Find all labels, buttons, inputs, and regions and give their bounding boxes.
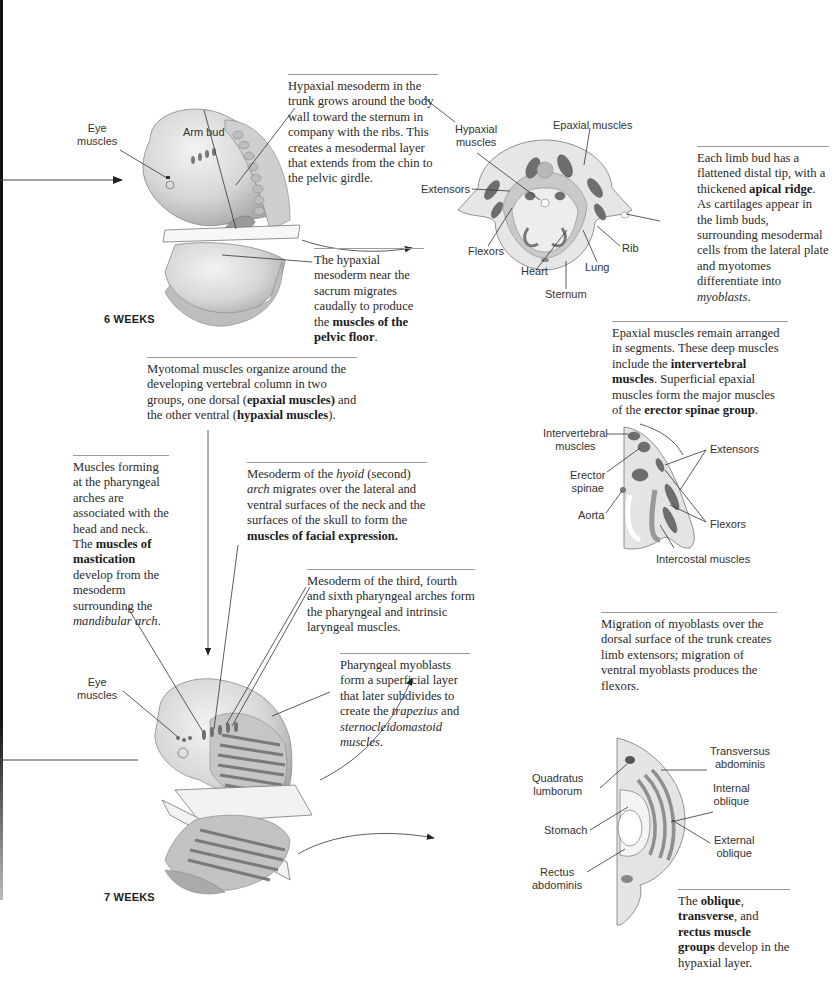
label-erector-spinae: Erector spinae — [570, 469, 605, 495]
caption-text: migrates over the lateral and ventral su… — [247, 482, 425, 527]
label-internal-oblique: Internal oblique — [713, 782, 750, 808]
caption-text: . — [747, 290, 750, 304]
caption-third-fourth-sixth-arches: Mesoderm of the third, fourth and sixth … — [307, 569, 475, 636]
term-mandibular-arch: mandibular arch — [73, 614, 158, 628]
term-myoblasts: myoblasts — [697, 290, 747, 304]
term-trapezius: trapezius — [392, 704, 438, 718]
caption-oblique: The oblique, transverse, and rectus musc… — [678, 889, 790, 971]
caption-text: develop from the mesoderm surrounding th… — [73, 568, 159, 613]
term-hypaxial-muscles: hypaxial muscles — [237, 408, 328, 422]
embryo-6-weeks — [143, 109, 300, 326]
label-quadratus-lumborum: Quadratus lumborum — [532, 772, 583, 798]
label-stomach: Stomach — [544, 824, 587, 837]
term-epaxial-muscles: epaxial muscles) — [247, 393, 335, 407]
caption-text: . — [755, 403, 758, 417]
label-hypaxial-muscles: Hypaxial muscles — [455, 123, 497, 149]
label-intercostal-muscles: Intercostal muscles — [656, 553, 750, 566]
caption-text: and — [438, 704, 459, 718]
caption-text: . As cartilages appear in the limb buds,… — [697, 182, 828, 288]
stage-label-7-weeks: 7 WEEKS — [104, 891, 155, 903]
caption-limb-bud: Each limb bud has a flattened distal tip… — [697, 146, 829, 305]
term-facial-expression-muscles: muscles of facial expression. — [247, 529, 398, 543]
stage-label-6-weeks: 6 WEEKS — [104, 313, 155, 325]
label-extensors-thorax: Extensors — [421, 183, 470, 196]
caption-text: Mesoderm of the third, fourth and sixth … — [307, 574, 475, 634]
caption-pharyngeal-arches: Muscles forming at the pharyngeal arches… — [73, 455, 169, 629]
term-arch: arch — [247, 482, 270, 496]
caption-myotomal: Myotomal muscles organize around the dev… — [147, 357, 357, 424]
caption-text: . — [375, 330, 378, 344]
caption-text: Mesoderm of the — [247, 467, 336, 481]
caption-text: , — [741, 894, 744, 908]
caption-hyoid: Mesoderm of the hyoid (second) arch migr… — [247, 462, 427, 544]
caption-text: ). — [328, 408, 335, 422]
caption-text: Migration of myoblasts over the dorsal s… — [601, 617, 771, 693]
caption-text: . — [380, 735, 383, 749]
term-transverse: transverse — [678, 909, 734, 923]
abdomen-cross-section — [617, 738, 685, 925]
epaxial-cross-section — [620, 424, 694, 549]
label-flexors-limb: Flexors — [710, 518, 746, 531]
label-transversus-abdominis: Transversus abdominis — [710, 745, 770, 771]
label-arm-bud: Arm bud — [183, 126, 225, 139]
caption-sacrum: The hypaxial mesoderm near the sacrum mi… — [314, 248, 424, 345]
label-flexors-thorax: Flexors — [468, 245, 504, 258]
term-sternocleidomastoid: sternocleidomastoid muscles — [340, 720, 442, 749]
caption-text: , and — [734, 909, 758, 923]
label-rib: Rib — [622, 242, 639, 255]
label-eye-muscles-7wk: Eye muscles — [77, 676, 117, 702]
label-eye-muscles-6wk: Eye muscles — [77, 122, 117, 148]
caption-text: (second) — [364, 467, 411, 481]
caption-epaxial: Epaxial muscles remain arranged in segme… — [612, 321, 788, 418]
term-apical-ridge: apical ridge — [749, 182, 812, 196]
label-rectus-abdominis: Rectus abdominis — [532, 866, 582, 892]
label-aorta: Aorta — [578, 509, 604, 522]
caption-text: . — [158, 614, 161, 628]
label-intervertebral-muscles: Intervertebral muscles — [543, 427, 608, 453]
label-external-oblique: External oblique — [714, 834, 754, 860]
label-extensors-limb: Extensors — [710, 443, 759, 456]
label-heart: Heart — [521, 265, 548, 278]
caption-hypaxial-trunk: Hypaxial mesoderm in the trunk grows aro… — [288, 74, 438, 187]
caption-text: Hypaxial mesoderm in the trunk grows aro… — [288, 79, 434, 185]
label-lung: Lung — [585, 261, 609, 274]
label-epaxial-muscles: Epaxial muscles — [553, 119, 632, 132]
term-erector-spinae-group: erector spinae group — [644, 403, 755, 417]
label-sternum: Sternum — [545, 288, 587, 301]
embryo-7-weeks — [155, 679, 312, 894]
term-hyoid: hyoid — [336, 467, 364, 481]
embryonic-muscle-development-figure: Hypaxial mesoderm in the trunk grows aro… — [0, 0, 840, 987]
caption-text: The — [678, 894, 701, 908]
caption-migration: Migration of myoblasts over the dorsal s… — [601, 612, 777, 694]
caption-pharyngeal-myoblasts: Pharyngeal myoblasts form a superficial … — [340, 653, 470, 750]
term-oblique: oblique — [701, 894, 741, 908]
